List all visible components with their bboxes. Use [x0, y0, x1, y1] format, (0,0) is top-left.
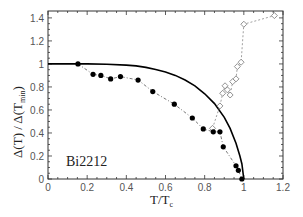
y-tick-labels: 00.20.40.60.811.21.4: [30, 13, 44, 185]
x-tick-label: 0.2: [80, 182, 94, 193]
x-axis-title-sub: c: [170, 200, 174, 209]
circle-marker: [150, 89, 155, 94]
diamond-marker: [220, 90, 226, 96]
y-tick-label: 0: [38, 174, 44, 185]
circle-marker: [98, 73, 103, 78]
x-tick-label: 0.8: [198, 182, 212, 193]
circle-marker: [75, 61, 80, 66]
y-tick-label: 0.4: [30, 128, 44, 139]
y-tick-label: 1.4: [30, 13, 44, 24]
chart: 00.20.40.60.811.2 00.20.40.60.811.21.4 B…: [0, 0, 303, 217]
open-diamond-series: [210, 13, 278, 132]
x-tick-label: 1.2: [276, 182, 290, 193]
circle-marker: [118, 74, 123, 79]
circle-marker: [233, 163, 238, 168]
x-tick-label: 0.4: [119, 182, 133, 193]
diamond-marker: [227, 92, 233, 98]
y-tick-label: 1.2: [30, 36, 44, 47]
circle-marker: [135, 77, 140, 82]
circle-marker: [211, 129, 216, 134]
circle-marker: [201, 126, 206, 131]
circle-marker: [190, 115, 195, 120]
sample-label: Bi2212: [66, 154, 107, 169]
circle-marker: [172, 102, 177, 107]
y-tick-label: 0.8: [30, 82, 44, 93]
circle-marker: [217, 129, 222, 134]
circle-marker: [239, 176, 244, 181]
x-tick-label: 0: [45, 182, 51, 193]
y-axis-title-sub: min: [18, 91, 27, 103]
diamond-marker: [241, 21, 247, 27]
circle-marker: [236, 168, 241, 173]
circle-marker: [90, 72, 95, 77]
y-axis-title-main: Δ(T) / Δ(T: [10, 103, 25, 158]
y-axis-title-suffix: ): [10, 86, 25, 90]
circle-marker: [221, 144, 226, 149]
y-tick-label: 0.6: [30, 105, 44, 116]
y-tick-label: 1: [38, 59, 44, 70]
y-axis-title: Δ(T) / Δ(Tmin): [10, 86, 27, 158]
y-tick-label: 0.2: [30, 151, 44, 162]
circle-marker: [108, 76, 113, 81]
x-tick-label: 1: [241, 182, 247, 193]
diamond-marker: [271, 13, 277, 19]
x-axis-title: T/Tc: [150, 192, 174, 209]
x-axis-title-main: T/T: [150, 192, 170, 207]
